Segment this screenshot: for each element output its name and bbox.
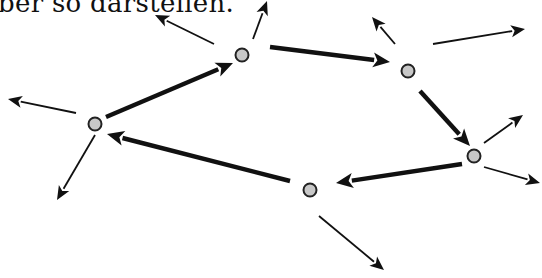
outgoing-arrow-n2-right [433, 25, 525, 44]
node-n2 [402, 65, 415, 78]
outgoing-arrow-n1-up-left-shaft [167, 21, 214, 44]
outgoing-arrow-n3-up-right-head [508, 115, 523, 128]
outgoing-arrow-n5-down-left [57, 135, 95, 200]
outgoing-arrow-n2-up-left-shaft [380, 27, 395, 44]
outgoing-arrow-n2-up-left [372, 17, 395, 44]
cycle-arrow-n1-n2-head [372, 52, 390, 67]
outgoing-arrow-n2-right-shaft [433, 31, 512, 44]
cycle-arrow-n2-n3 [420, 91, 470, 146]
outgoing-arrow-n2-right-head [510, 25, 525, 37]
outgoing-arrow-n3-down-right [484, 167, 540, 185]
cycle-arrow-n3-n4-head [336, 173, 354, 188]
outgoing-arrow-n5-left-head [8, 96, 23, 108]
outgoing-arrow-n3-down-right-shaft [484, 167, 528, 179]
outgoing-arrow-n1-up-left [155, 15, 214, 44]
cycle-arrow-n3-n4-shaft [352, 164, 462, 181]
cycle-arrow-n4-n5 [107, 131, 290, 181]
outgoing-arrow-n1-up-shaft [253, 13, 263, 39]
cycle-arrow-n1-n2-shaft [270, 47, 374, 60]
cycle-arrow-n5-n1 [106, 63, 233, 117]
cycle-arrow-n5-n1-shaft [106, 69, 218, 117]
outgoing-arrow-n4-down-right-head [369, 256, 384, 270]
node-n3 [468, 150, 481, 163]
cycle-arrow-n2-n3-shaft [420, 91, 459, 134]
outgoing-arrow-n5-left-shaft [21, 102, 76, 113]
outgoing-arrow-n3-up-right-shaft [484, 123, 512, 143]
cycle-arrow-n1-n2 [270, 47, 390, 67]
outgoing-arrow-n4-down-right [319, 216, 384, 270]
outgoing-arrow-n5-left [8, 96, 76, 113]
network-diagram [0, 0, 542, 278]
cycle-arrow-n3-n4 [336, 164, 462, 188]
node-n1 [236, 49, 249, 62]
outgoing-arrow-n3-up-right [484, 115, 523, 143]
node-n5 [89, 118, 102, 131]
node-n4 [304, 184, 317, 197]
outgoing-arrow-n4-down-right-shaft [319, 216, 374, 262]
outgoing-arrow-n5-down-left-head [57, 185, 69, 200]
outgoing-arrow-n5-down-left-shaft [64, 135, 95, 189]
outgoing-arrow-n1-up [253, 1, 268, 39]
cycle-arrow-n4-n5-shaft [122, 138, 290, 181]
